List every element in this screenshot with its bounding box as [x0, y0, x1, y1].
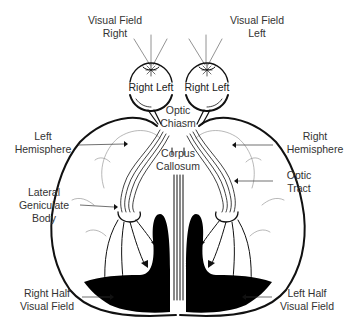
label-line: Left Half: [274, 287, 340, 300]
label-line: Geniculate: [12, 199, 76, 212]
label-line: Hemisphere: [12, 143, 74, 156]
label-right-eye-sides: Right Left: [128, 81, 174, 94]
label-line: Lateral: [12, 186, 76, 199]
label-line: Optic: [152, 104, 204, 117]
label-corpus-callosum: Corpus Callosum: [150, 147, 206, 173]
label-line: Right Left: [128, 81, 174, 94]
label-line: Left: [12, 130, 74, 143]
label-optic-tract: Optic Tract: [276, 169, 322, 195]
label-visual-field-right: Visual Field Right: [80, 14, 150, 40]
label-left-half-visual-field: Left Half Visual Field: [274, 287, 340, 313]
label-line: Tract: [276, 182, 322, 195]
label-visual-field-left: Visual Field Left: [222, 14, 292, 40]
right-optic-tract: [187, 130, 238, 222]
label-line: Right: [80, 27, 150, 40]
label-left-eye-sides: Right Left: [184, 81, 230, 94]
label-line: Hemisphere: [282, 143, 348, 156]
label-line: Visual Field: [274, 300, 340, 313]
label-line: Left: [222, 27, 292, 40]
label-line: Callosum: [150, 160, 206, 173]
label-right-half-visual-field: Right Half Visual Field: [14, 287, 80, 313]
label-line: Visual Field: [14, 300, 80, 313]
label-line: Corpus: [150, 147, 206, 160]
visual-field-rays-left: [189, 35, 222, 65]
label-line: Optic: [276, 169, 322, 182]
right-half-visual-field-cortex: [84, 214, 170, 313]
label-optic-chiasm: Optic Chiasm: [152, 104, 204, 130]
label-line: Chiasm: [152, 117, 204, 130]
visual-pathway-diagram: Visual Field Right Visual Field Left Rig…: [0, 0, 356, 326]
label-right-hemisphere: Right Hemisphere: [282, 130, 348, 156]
label-line: Right Half: [14, 287, 80, 300]
label-line: Body: [12, 212, 76, 225]
left-half-visual-field-cortex: [186, 214, 272, 313]
label-left-hemisphere: Left Hemisphere: [12, 130, 74, 156]
label-line: Right: [282, 130, 348, 143]
label-line: Right Left: [184, 81, 230, 94]
label-lateral-geniculate-body: Lateral Geniculate Body: [12, 186, 76, 225]
label-line: Visual Field: [222, 14, 292, 27]
label-line: Visual Field: [80, 14, 150, 27]
